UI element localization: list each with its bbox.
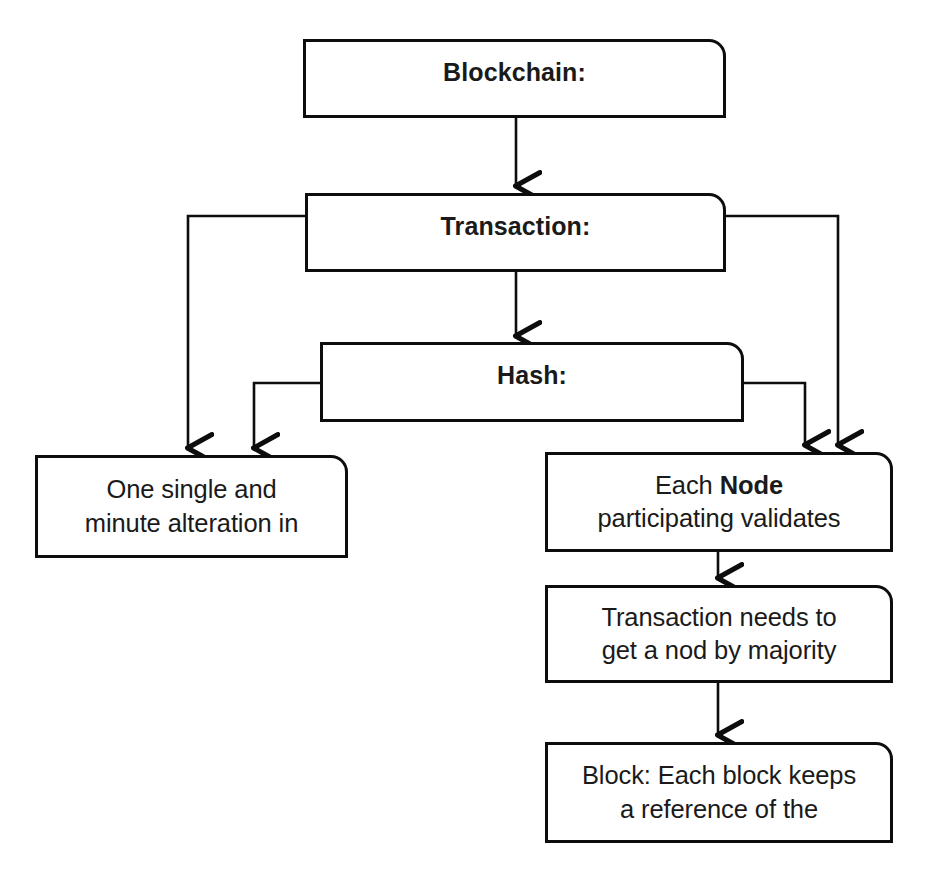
edge-hash-alteration [254, 383, 320, 448]
node-hash-label: Hash: [497, 345, 567, 392]
diagram-canvas: Blockchain: Transaction: Hash: One singl… [0, 0, 928, 872]
node-node-label: Each Node participating validates [598, 469, 841, 535]
node-majority-label: Transaction needs to get a nod by majori… [601, 601, 836, 667]
node-alteration[interactable]: One single and minute alteration in [35, 455, 348, 558]
edge-transaction-alteration [188, 216, 305, 448]
edge-hash-node [744, 383, 805, 445]
node-blockchain[interactable]: Blockchain: [303, 39, 726, 118]
node-majority[interactable]: Transaction needs to get a nod by majori… [545, 585, 893, 683]
node-transaction-label: Transaction: [441, 196, 591, 243]
node-hash[interactable]: Hash: [320, 342, 744, 422]
node-transaction[interactable]: Transaction: [305, 193, 726, 272]
node-block[interactable]: Block: Each block keeps a reference of t… [545, 742, 893, 843]
node-blockchain-label: Blockchain: [443, 42, 586, 89]
node-block-label: Block: Each block keeps a reference of t… [582, 759, 856, 825]
node-alteration-label: One single and minute alteration in [85, 473, 298, 539]
node-node[interactable]: Each Node participating validates [545, 452, 893, 552]
